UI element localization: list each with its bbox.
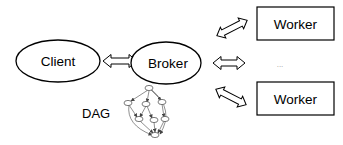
dag-node <box>135 116 143 121</box>
broker-label: Broker <box>148 56 188 71</box>
broker-node: Broker <box>131 42 201 84</box>
broker-worker-top-arrow <box>214 15 250 41</box>
dag-node <box>158 99 166 104</box>
dag-node <box>124 100 132 105</box>
worker-top-node: Worker <box>257 7 334 40</box>
worker-top-label: Worker <box>274 17 318 32</box>
dag-label: DAG <box>82 106 110 121</box>
worker-bottom-label: Worker <box>274 92 318 107</box>
dag-node <box>151 132 159 137</box>
dag-graph <box>124 85 169 137</box>
ellipsis-label: ... <box>277 60 284 69</box>
dag-node <box>145 85 153 90</box>
broker-ellipsis-arrow <box>213 57 245 70</box>
dag-node <box>150 117 158 122</box>
dag-node <box>142 101 150 106</box>
client-node: Client <box>16 40 100 82</box>
broker-worker-bottom-arrow <box>213 84 249 110</box>
dag-node <box>161 116 169 121</box>
architecture-diagram: Client Broker ... Worker Worker DAG <box>0 0 343 145</box>
client-label: Client <box>41 54 76 69</box>
worker-bottom-node: Worker <box>257 82 334 115</box>
